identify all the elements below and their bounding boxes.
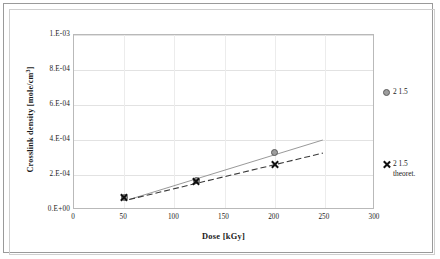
x-axis-tick-label: 100: [153, 213, 193, 221]
chart-legend: 2 1.52 1.5 theoret.: [382, 34, 438, 209]
y-axis-title-tail: ]: [26, 66, 35, 69]
marker-glyph: [382, 160, 391, 169]
trend-line: [129, 140, 323, 200]
x-axis-tick-label: 300: [354, 213, 394, 221]
x-axis-tick-label: 0: [53, 213, 93, 221]
circle-marker-icon: [382, 88, 391, 97]
y-axis-title: Crosslink density [mole/cm3]: [25, 39, 36, 199]
y-axis-title-text: Crosslink density [mole/cm: [26, 72, 35, 172]
trend-line: [129, 153, 323, 199]
x-axis-title: Dose [kGy]: [73, 232, 374, 241]
data-point-cross: [270, 160, 279, 169]
x-axis-tick-labels: 050100150200250300: [73, 213, 374, 227]
marker-glyph: [383, 89, 390, 96]
cross-marker-icon: [382, 160, 391, 169]
x-axis-tick-label: 50: [103, 213, 143, 221]
y-axis-title-container: Crosslink density [mole/cm3]: [14, 4, 34, 254]
plot-area: [73, 34, 374, 209]
x-axis-tick-label: 200: [254, 213, 294, 221]
chart-outer-frame: 0.E+002.E-044.E-046.E-048.E-041.E-03 Cro…: [3, 3, 433, 253]
x-axis-tick-label: 250: [304, 213, 344, 221]
x-axis-tick-label: 150: [204, 213, 244, 221]
trend-lines: [74, 35, 375, 210]
data-point-cross: [192, 177, 201, 186]
legend-label: 2 1.5: [393, 87, 438, 97]
legend-label: 2 1.5 theoret.: [393, 159, 438, 178]
data-point-circle: [271, 149, 278, 156]
data-point-cross: [120, 193, 129, 202]
data-series-layer: [74, 35, 375, 210]
y-axis-title-exponent: 3: [25, 69, 31, 72]
